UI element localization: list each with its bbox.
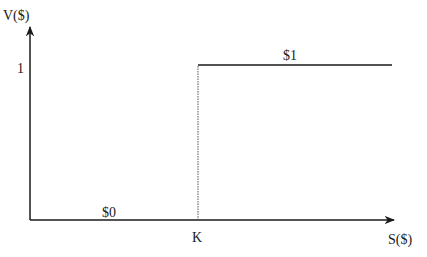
payoff-diagram: V($) 1 $1 $0 K S($) (0, 0, 427, 257)
low-segment-label: $0 (102, 205, 116, 220)
x-tick-label: K (192, 230, 202, 245)
high-segment-label: $1 (283, 48, 297, 63)
y-axis-label: V($) (3, 8, 30, 24)
x-axis-label: S($) (388, 232, 412, 248)
y-tick-label: 1 (17, 61, 24, 76)
